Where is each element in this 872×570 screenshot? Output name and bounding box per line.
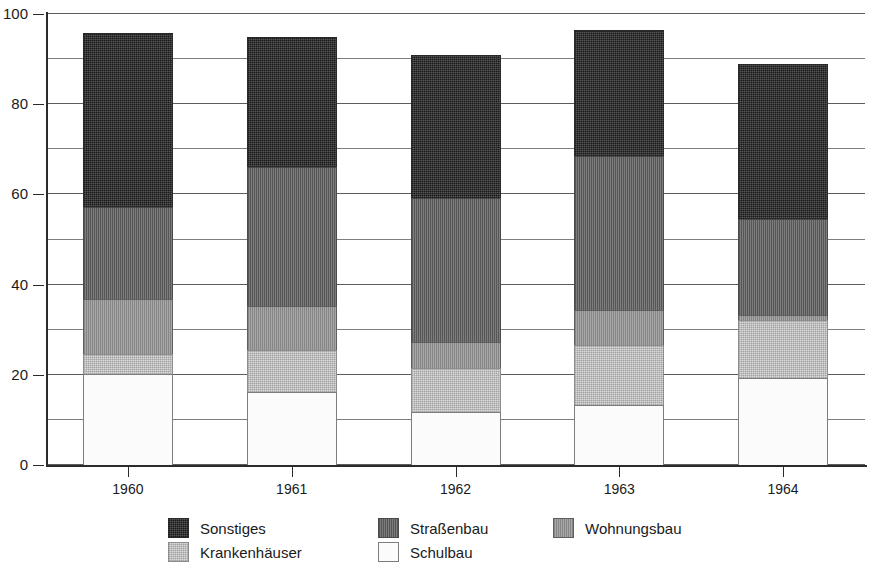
bar-segment-krankenhaeuser [247,350,337,393]
y-axis-tick-label: 40 [0,277,28,292]
y-axis-tick [33,375,44,376]
legend-item-strassenbau[interactable]: Straßenbau [378,518,553,538]
x-axis-line [46,465,867,467]
bar-segment-schulbau [83,374,173,466]
legend-swatch-wohnungsbau [553,518,574,538]
bar-segment-strassenbau [738,219,828,316]
y-axis-tick-label: 60 [0,186,28,201]
bar-segment-wohnungsbau [83,299,173,355]
gridline [46,13,865,14]
bar-segment-krankenhaeuser [574,345,664,406]
bar-1964 [738,64,828,465]
x-axis-tick [128,466,129,477]
legend-swatch-sonstiges [168,518,189,538]
y-axis-tick [33,194,44,195]
x-axis-tick [619,466,620,477]
y-axis-tick [33,104,44,105]
bar-1963 [574,30,664,465]
bar-segment-sonstiges [574,30,664,156]
legend-item-label: Sonstiges [200,520,266,537]
legend-item-label: Straßenbau [410,520,488,537]
y-axis-tick-label: 0 [0,457,28,472]
y-axis-line [46,12,48,467]
legend-item-label: Wohnungsbau [585,520,681,537]
bar-segment-schulbau [247,392,337,466]
bar-segment-krankenhaeuser [738,320,828,379]
legend-swatch-strassenbau [378,518,399,538]
bar-segment-sonstiges [83,33,173,209]
x-axis-tick [783,466,784,477]
x-axis-tick [456,466,457,477]
legend-swatch-schulbau [378,542,399,562]
bar-segment-sonstiges [247,37,337,168]
y-axis-tick-label: 80 [0,96,28,111]
legend-item-wohnungsbau[interactable]: Wohnungsbau [553,518,728,538]
y-axis-tick [33,14,44,15]
legend-item-krankenhaeuser[interactable]: Krankenhäuser [168,542,378,562]
bar-1961 [247,37,337,465]
chart-legend: SonstigesStraßenbauWohnungsbauKrankenhäu… [168,516,728,564]
legend-item-sonstiges[interactable]: Sonstiges [168,518,378,538]
legend-swatch-krankenhaeuser [168,542,189,562]
legend-item-schulbau[interactable]: Schulbau [378,542,553,562]
bar-segment-strassenbau [574,156,664,312]
bar-segment-strassenbau [247,167,337,307]
y-axis-tick-label: 20 [0,367,28,382]
plot-area [46,14,865,465]
bar-segment-krankenhaeuser [83,354,173,374]
bar-segment-wohnungsbau [574,310,664,346]
bar-segment-krankenhaeuser [411,368,501,413]
x-axis-tick-label: 1960 [112,481,143,497]
x-axis-tick [292,466,293,477]
bar-segment-schulbau [411,412,501,466]
bar-segment-sonstiges [738,64,828,220]
y-axis-tick [33,285,44,286]
bar-segment-strassenbau [83,207,173,299]
y-axis-tick [33,465,44,466]
bar-segment-wohnungsbau [411,342,501,369]
bar-1960 [83,33,173,465]
x-axis-tick-label: 1963 [604,481,635,497]
bar-segment-wohnungsbau [247,306,337,351]
bar-segment-sonstiges [411,55,501,199]
legend-item-label: Krankenhäuser [200,544,302,561]
bar-segment-schulbau [738,378,828,466]
stacked-bar-chart: 020406080100 19601961196219631964 Sonsti… [0,0,872,570]
bar-segment-strassenbau [411,198,501,342]
y-axis-tick-label: 100 [0,6,28,21]
x-axis-tick-label: 1962 [440,481,471,497]
bar-1962 [411,55,501,465]
legend-item-label: Schulbau [410,544,473,561]
x-axis-tick-label: 1961 [276,481,307,497]
bar-segment-schulbau [574,405,664,466]
x-axis-tick-label: 1964 [768,481,799,497]
